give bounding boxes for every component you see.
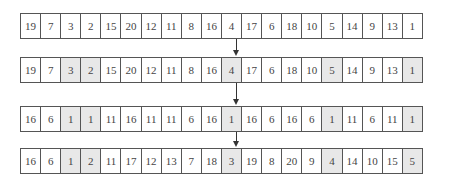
array-cell: 15 <box>101 58 121 82</box>
array-row-result: 1661211171213718319820941410155 <box>20 148 423 174</box>
array-cell: 16 <box>202 58 222 82</box>
array-row-original: 1973215201211816417618105149131 <box>20 13 423 39</box>
array-cell: 16 <box>202 14 222 38</box>
array-row-marked: 1973215201211816417618105149131 <box>20 57 423 83</box>
array-cell-highlighted: 2 <box>81 58 101 82</box>
array-cell-highlighted: 4 <box>322 149 342 173</box>
array-cell: 17 <box>121 149 141 173</box>
array-cell: 6 <box>302 107 322 131</box>
array-cell-highlighted: 5 <box>403 149 423 173</box>
array-cell: 7 <box>182 149 202 173</box>
array-cell: 16 <box>21 149 41 173</box>
array-cell: 2 <box>81 14 101 38</box>
array-cell: 20 <box>121 58 141 82</box>
array-cell: 11 <box>162 14 182 38</box>
array-cell: 6 <box>182 107 202 131</box>
array-cell: 16 <box>242 107 262 131</box>
array-cell: 14 <box>343 149 363 173</box>
array-cell: 13 <box>383 58 403 82</box>
array-cell: 11 <box>162 58 182 82</box>
array-cell-highlighted: 5 <box>322 58 342 82</box>
array-cell: 3 <box>61 14 81 38</box>
arrow-down-icon <box>236 132 238 148</box>
array-cell-highlighted: 1 <box>403 58 423 82</box>
array-cell: 11 <box>101 107 121 131</box>
array-cell-highlighted: 1 <box>61 107 81 131</box>
array-cell: 7 <box>41 14 61 38</box>
array-cell: 20 <box>282 149 302 173</box>
array-cell: 11 <box>162 107 182 131</box>
array-cell-highlighted: 1 <box>322 107 342 131</box>
array-cell: 16 <box>21 107 41 131</box>
array-cell: 7 <box>41 58 61 82</box>
array-cell: 9 <box>302 149 322 173</box>
array-cell: 9 <box>363 14 383 38</box>
array-cell: 11 <box>343 107 363 131</box>
array-cell: 13 <box>162 149 182 173</box>
array-cell: 6 <box>262 14 282 38</box>
array-cell: 10 <box>302 14 322 38</box>
array-cell-highlighted: 3 <box>222 149 242 173</box>
array-cell: 10 <box>363 149 383 173</box>
array-cell: 1 <box>403 14 423 38</box>
array-cell: 19 <box>21 58 41 82</box>
array-cell: 18 <box>282 14 302 38</box>
array-cell: 8 <box>182 58 202 82</box>
array-cell: 6 <box>41 149 61 173</box>
array-cell: 10 <box>302 58 322 82</box>
array-cell: 11 <box>142 107 162 131</box>
array-cell: 18 <box>282 58 302 82</box>
array-row-intermediate: 166111116111161611661661116111 <box>20 106 423 132</box>
array-cell: 14 <box>343 14 363 38</box>
array-cell: 6 <box>41 107 61 131</box>
array-cell-highlighted: 4 <box>222 58 242 82</box>
array-cell: 11 <box>383 107 403 131</box>
array-cell: 16 <box>202 107 222 131</box>
array-cell: 5 <box>322 14 342 38</box>
arrow-down-icon <box>236 39 238 57</box>
array-cell: 8 <box>182 14 202 38</box>
array-cell: 9 <box>363 58 383 82</box>
array-cell-highlighted: 2 <box>81 149 101 173</box>
array-cell: 4 <box>222 14 242 38</box>
array-cell: 6 <box>262 58 282 82</box>
array-cell: 19 <box>242 149 262 173</box>
array-cell-highlighted: 1 <box>403 107 423 131</box>
array-cell: 6 <box>363 107 383 131</box>
array-cell: 12 <box>142 149 162 173</box>
array-cell-highlighted: 1 <box>81 107 101 131</box>
array-cell: 20 <box>121 14 141 38</box>
array-cell: 15 <box>101 14 121 38</box>
array-cell: 18 <box>202 149 222 173</box>
array-cell: 17 <box>242 58 262 82</box>
array-cell: 12 <box>142 14 162 38</box>
array-cell-highlighted: 1 <box>222 107 242 131</box>
array-cell: 13 <box>383 14 403 38</box>
array-cell: 19 <box>21 14 41 38</box>
array-cell: 17 <box>242 14 262 38</box>
array-cell: 8 <box>262 149 282 173</box>
array-cell: 6 <box>262 107 282 131</box>
array-cell: 16 <box>121 107 141 131</box>
array-cell: 16 <box>282 107 302 131</box>
array-cell: 12 <box>142 58 162 82</box>
array-cell: 14 <box>343 58 363 82</box>
arrow-down-icon <box>236 83 238 106</box>
array-cell-highlighted: 3 <box>61 58 81 82</box>
array-cell: 11 <box>101 149 121 173</box>
array-cell: 15 <box>383 149 403 173</box>
array-cell-highlighted: 1 <box>61 149 81 173</box>
